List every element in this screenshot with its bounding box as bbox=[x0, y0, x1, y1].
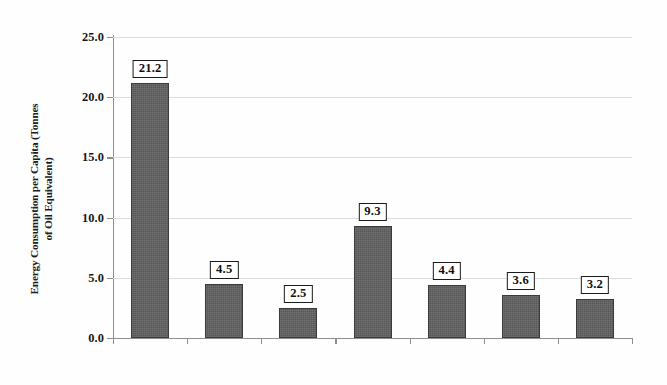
x-axis-tick bbox=[632, 338, 633, 344]
bar-value-label: 4.4 bbox=[432, 262, 460, 280]
y-axis-tick-label: 5.0 bbox=[88, 270, 104, 285]
x-axis-tick bbox=[335, 338, 336, 344]
bar bbox=[428, 285, 466, 338]
x-axis-tick bbox=[410, 338, 411, 344]
y-axis-title: Energy Consumption per Capita (Tonnes of… bbox=[20, 39, 62, 359]
y-axis-tick bbox=[107, 218, 113, 219]
bar-value-label: 3.2 bbox=[581, 276, 609, 294]
gridline bbox=[113, 97, 632, 98]
gridline bbox=[113, 37, 632, 38]
y-axis-tick bbox=[107, 37, 113, 38]
bar bbox=[576, 299, 614, 338]
bar bbox=[502, 295, 540, 338]
bar bbox=[354, 226, 392, 338]
x-axis-tick bbox=[558, 338, 559, 344]
y-axis-tick bbox=[107, 157, 113, 158]
bar bbox=[131, 83, 169, 338]
bar bbox=[279, 308, 317, 338]
y-axis-tick-label: 15.0 bbox=[82, 150, 104, 165]
y-axis-title-line-1: Energy Consumption per Capita (Tonnes bbox=[27, 104, 41, 295]
bar bbox=[205, 284, 243, 338]
plot-area: 0.05.010.015.020.025.0 21.24.52.59.34.43… bbox=[113, 37, 632, 338]
y-axis-tick-label: 10.0 bbox=[82, 210, 104, 225]
y-axis-tick-label: 25.0 bbox=[82, 30, 104, 45]
bar-chart: Energy Consumption per Capita (Tonnes of… bbox=[0, 0, 667, 385]
x-axis-tick bbox=[484, 338, 485, 344]
gridline bbox=[113, 157, 632, 158]
y-axis-tick-label: 0.0 bbox=[88, 331, 104, 346]
y-axis-tick-label: 20.0 bbox=[82, 90, 104, 105]
bar-value-label: 2.5 bbox=[284, 285, 312, 303]
bar-value-label: 3.6 bbox=[507, 272, 535, 290]
x-axis-tick bbox=[261, 338, 262, 344]
y-axis-title-line-2: of Oil Equivalent) bbox=[41, 157, 55, 240]
x-axis-tick bbox=[113, 338, 114, 344]
bar-value-label: 9.3 bbox=[358, 203, 386, 221]
bar-value-label: 4.5 bbox=[210, 261, 238, 279]
y-axis-tick bbox=[107, 278, 113, 279]
y-axis-tick bbox=[107, 97, 113, 98]
x-axis-tick bbox=[187, 338, 188, 344]
bar-value-label: 21.2 bbox=[133, 60, 168, 78]
